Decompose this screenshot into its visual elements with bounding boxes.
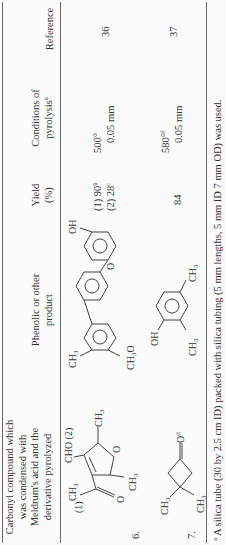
header-product: Phenolic or other product	[30, 255, 55, 365]
svg-text:CH3: CH3	[93, 409, 106, 427]
footnote-marker: f	[159, 131, 166, 133]
svg-text:Od: Od	[174, 432, 186, 443]
header-reference: Reference	[44, 1, 57, 57]
svg-text:CH3: CH3	[127, 473, 140, 491]
header-line: Carbonyl compound which	[4, 413, 17, 541]
svg-text:CH3O: CH3O	[125, 345, 138, 370]
header-rule	[60, 2, 61, 543]
yield-6: (1) 90b (2) 28c	[92, 182, 117, 211]
header-line: pyrolysis	[43, 100, 54, 139]
svg-text:O: O	[111, 446, 122, 453]
row-number: 7.	[186, 531, 199, 539]
pressure: 0.05 mm	[105, 106, 118, 153]
product-structure-7: OH CH3 CH3	[146, 220, 206, 360]
header-yield: Yield (%)	[30, 175, 55, 215]
top-rule	[2, 2, 3, 543]
header-line: Phenolic or other	[30, 255, 43, 365]
footnote-text: A silica tube (30 by 2.5 cm ID) packed w…	[212, 100, 223, 537]
header-carbonyl: Carbonyl compound which was condensed wi…	[4, 413, 54, 541]
header-line: derivative pyrolyzed	[42, 413, 55, 541]
temperature: 500°	[92, 106, 105, 153]
svg-text:CHO (2): CHO (2)	[63, 428, 75, 463]
carbonyl-structure-7: CH3 CH3 Od	[146, 407, 206, 527]
pressure: 0.05 mm	[173, 106, 186, 153]
svg-text:CH3: CH3	[67, 483, 80, 501]
header-line: was condensed with	[17, 413, 30, 541]
bottom-rule	[206, 2, 207, 543]
header-line: Conditions of	[30, 73, 43, 163]
header-line: Yield	[30, 175, 43, 215]
reference-7: 37	[168, 27, 181, 38]
temperature: 580°	[160, 133, 171, 153]
reference-6: 36	[100, 27, 113, 38]
svg-text:CH3: CH3	[187, 264, 200, 282]
svg-text:CH3: CH3	[187, 338, 200, 356]
conditions-7: 580°f 0.05 mm	[160, 106, 185, 153]
yield-value: (2) 28	[105, 186, 116, 211]
carbonyl-structure-6: (1) CH3 O CHO (2) CH3 O CH3	[62, 399, 140, 527]
svg-text:O: O	[105, 263, 116, 270]
header-line: (%)	[43, 175, 56, 215]
footnote-marker: c	[104, 183, 111, 186]
conditions-6: 500° 0.05 mm	[92, 106, 117, 153]
header-conditions: Conditions of pyrolysisa	[30, 73, 55, 163]
svg-text:O: O	[115, 496, 126, 503]
footnote-marker: a	[211, 538, 218, 541]
product-structure-6: CH3 CH3O O OH	[62, 220, 142, 370]
yield-value: (1) 90	[92, 186, 103, 211]
rotated-document-page: Carbonyl compound which was condensed wi…	[0, 0, 226, 545]
yield-7: 84	[172, 195, 185, 206]
header-line: product	[43, 255, 56, 365]
svg-text:(1): (1)	[73, 501, 85, 513]
svg-text:CH3: CH3	[195, 495, 206, 513]
row-number: 6.	[130, 531, 143, 539]
svg-text:CH3: CH3	[159, 497, 172, 515]
footnote: a A silica tube (30 by 2.5 cm ID) packed…	[212, 100, 223, 542]
svg-text:OH: OH	[67, 220, 78, 234]
footnote-marker: b	[91, 182, 98, 185]
svg-text:CH3: CH3	[67, 350, 80, 368]
svg-text:OH: OH	[149, 332, 160, 346]
footnote-marker: a	[42, 97, 49, 100]
header-line: Meldrum's acid and the	[29, 413, 42, 541]
